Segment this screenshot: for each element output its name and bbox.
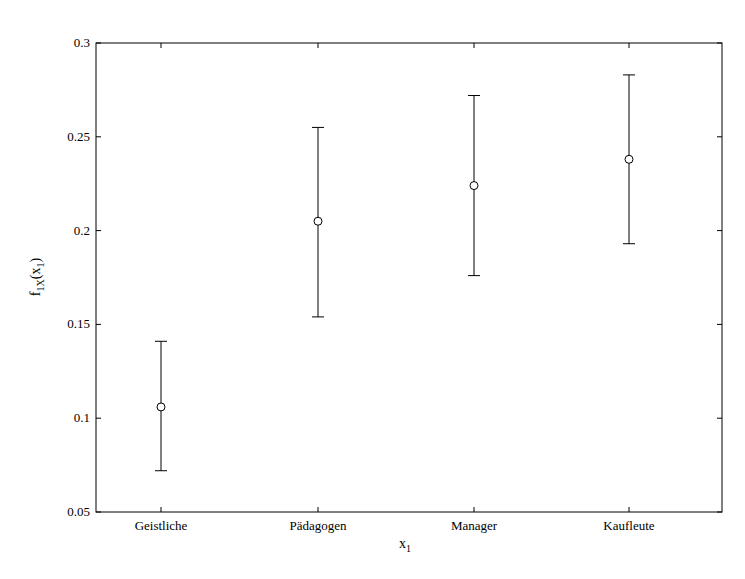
error-bar [312, 127, 324, 316]
error-bar [155, 341, 167, 470]
point-marker [157, 403, 165, 411]
x-category-label: Manager [451, 518, 498, 533]
y-tick-label: 0.2 [74, 223, 90, 238]
y-tick-label: 0.15 [67, 316, 90, 331]
errorbar-chart: 0.050.10.150.20.250.3 GeistlichePädagoge… [0, 0, 745, 579]
y-tick-label: 0.25 [67, 129, 90, 144]
x-category-label: Kaufleute [603, 518, 654, 533]
error-bar [468, 96, 480, 276]
point-marker [625, 155, 633, 163]
y-axis-ticks: 0.050.10.150.20.250.3 [67, 35, 722, 519]
x-axis-label: x1 [399, 536, 411, 554]
y-tick-label: 0.3 [74, 35, 90, 50]
x-category-label: Pädagogen [289, 518, 347, 533]
error-bars [155, 75, 635, 471]
error-bar [623, 75, 635, 244]
point-marker [470, 182, 478, 190]
y-axis-label: f1X(x1) [28, 258, 46, 297]
plot-area-frame [96, 43, 722, 512]
x-category-label: Geistliche [135, 518, 188, 533]
y-tick-label: 0.05 [67, 504, 90, 519]
point-marker [314, 217, 322, 225]
x-axis-ticks: GeistlichePädagogenManagerKaufleute [135, 43, 655, 533]
y-tick-label: 0.1 [74, 410, 90, 425]
